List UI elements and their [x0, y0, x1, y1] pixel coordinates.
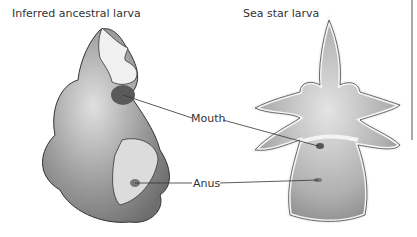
mouth-label: Mouth: [191, 112, 225, 125]
larva-body: [255, 20, 400, 221]
left-panel-title: Inferred ancestral larva: [12, 7, 141, 20]
right-panel-title: Sea star larva: [243, 7, 319, 20]
ancestral-larva: [43, 28, 170, 222]
anus-label: Anus: [193, 177, 220, 190]
sea-star-larva: [255, 20, 400, 221]
